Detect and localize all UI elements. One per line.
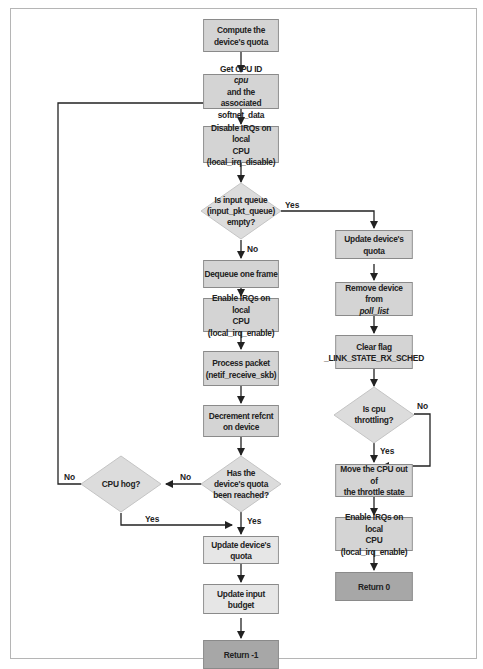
node-text: been reached? bbox=[201, 489, 280, 500]
decision-cpu-throttling-label: Is cpu throttling? bbox=[334, 403, 413, 425]
node-text: Has the bbox=[201, 467, 280, 478]
edge-label-queue-no: No bbox=[247, 243, 258, 254]
node-text: Update device's quota bbox=[204, 539, 278, 562]
node-text: Clear flag bbox=[324, 341, 424, 353]
node-text: Dequeue one frame bbox=[204, 268, 277, 280]
node-text: Move the CPU out of bbox=[336, 463, 412, 486]
node-text-emphasis: poll_list bbox=[336, 305, 412, 317]
node-text: the throttle state bbox=[336, 486, 412, 498]
node-compute-quota: Compute thedevice's quota bbox=[203, 19, 279, 52]
edge-label-queue-yes: Yes bbox=[285, 199, 299, 210]
node-text: and the bbox=[204, 86, 278, 98]
edge-label-hog-yes: Yes bbox=[145, 513, 159, 524]
edge-label-hog-no: No bbox=[64, 471, 75, 482]
node-text: on device bbox=[209, 421, 274, 433]
node-text: Update device's quota bbox=[336, 233, 412, 256]
node-text: (netif_receive_skb) bbox=[206, 369, 277, 381]
decision-quota-reached-label: Has the device's quota been reached? bbox=[201, 467, 280, 500]
node-text: Decrement refcnt bbox=[209, 410, 274, 422]
edge-label-quota-yes: Yes bbox=[247, 515, 261, 526]
node-text: Return 0 bbox=[358, 581, 390, 593]
node-text: Is cpu bbox=[334, 403, 413, 414]
node-remove-device: Remove device frompoll_list bbox=[335, 282, 412, 316]
edge-label-quota-no: No bbox=[180, 471, 191, 482]
node-text: Get CPU ID bbox=[204, 63, 278, 75]
node-dequeue: Dequeue one frame bbox=[203, 260, 279, 288]
node-text: CPU (local_irq_enable) bbox=[204, 315, 278, 338]
node-return-minus1: Return -1 bbox=[203, 640, 279, 669]
node-text: CPU (local_irq_disable) bbox=[204, 145, 278, 168]
node-update-quota-left: Update device's quota bbox=[203, 536, 279, 564]
node-update-quota-right: Update device's quota bbox=[335, 230, 412, 259]
node-text: _LINK_STATE_RX_SCHED bbox=[324, 352, 424, 364]
node-text: Enable IRQs on local bbox=[336, 511, 412, 534]
node-enable-irq-left: Enable IRQs on localCPU (local_irq_enabl… bbox=[203, 298, 279, 332]
node-disable-irq: Disable IRQs on localCPU (local_irq_disa… bbox=[203, 126, 279, 163]
node-text: Process packet bbox=[206, 357, 277, 369]
node-text: empty? bbox=[201, 216, 280, 227]
node-process-packet: Process packet(netif_receive_skb) bbox=[203, 351, 279, 386]
node-text: Disable IRQs on local bbox=[204, 122, 278, 145]
node-decrement-refcnt: Decrement refcnton device bbox=[203, 405, 279, 437]
node-text: Compute the bbox=[214, 24, 268, 36]
node-clear-flag: Clear flag_LINK_STATE_RX_SCHED bbox=[335, 335, 412, 369]
node-return-0: Return 0 bbox=[335, 572, 412, 601]
edge-label-throttle-yes: Yes bbox=[380, 445, 394, 456]
node-enable-irq-right: Enable IRQs on localCPU (local_irq_enabl… bbox=[335, 517, 412, 551]
node-update-budget: Update input budget bbox=[203, 584, 279, 614]
node-move-cpu: Move the CPU out ofthe throttle state bbox=[335, 464, 412, 497]
node-get-cpu: Get CPU ID cpu and theassociated softnet… bbox=[203, 74, 279, 109]
decision-cpu-hog-label: CPU hog? bbox=[90, 478, 152, 489]
node-text: Enable IRQs on local bbox=[204, 292, 278, 315]
node-text: Return -1 bbox=[224, 649, 258, 661]
node-text: (input_pkt_queue) bbox=[201, 205, 280, 216]
node-text: CPU (local_irq_enable) bbox=[336, 534, 412, 557]
edge-label-throttle-no: No bbox=[417, 400, 428, 411]
node-text: CPU hog? bbox=[102, 478, 140, 489]
node-text: device's quota bbox=[201, 478, 280, 489]
decision-queue-empty-label: Is input queue (input_pkt_queue) empty? bbox=[201, 194, 280, 227]
node-text-emphasis: cpu bbox=[234, 74, 248, 85]
node-text: throttling? bbox=[334, 414, 413, 425]
node-text: Update input budget bbox=[204, 588, 278, 611]
node-text: Is input queue bbox=[201, 194, 280, 205]
node-text: device's quota bbox=[214, 36, 268, 48]
node-text: associated softnet_data bbox=[204, 97, 278, 120]
node-text: Remove device from bbox=[336, 282, 412, 305]
